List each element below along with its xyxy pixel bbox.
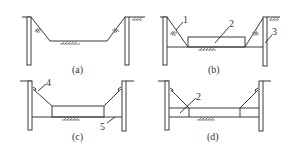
retaining-pile-right — [125, 17, 129, 65]
leader-line-2 — [180, 98, 196, 113]
subfigure-b: 1 2 3 (b) — [160, 14, 280, 76]
caption-d: (d) — [207, 131, 219, 143]
diagonal-brace-left — [33, 89, 52, 106]
retaining-pile-right — [122, 81, 126, 131]
subfigure-a: (a) — [22, 17, 145, 76]
center-block — [52, 106, 104, 117]
retaining-pile-left — [163, 17, 167, 65]
caption-a: (a) — [72, 64, 83, 76]
subfigure-d: 2 (d) — [158, 81, 271, 143]
label-2: 2 — [196, 91, 201, 102]
retaining-pile-left — [28, 81, 32, 130]
label-3: 3 — [272, 26, 277, 37]
caption-b: (b) — [208, 64, 220, 76]
retaining-pile-right — [259, 81, 263, 131]
diagonal-brace-left — [171, 90, 189, 108]
subfigure-c: 4 5 (c) — [20, 77, 134, 143]
slope-right — [245, 18, 263, 47]
caption-c: (c) — [72, 131, 83, 143]
diagonal-brace-right — [104, 89, 121, 106]
retaining-pile-left — [27, 17, 31, 65]
excavation-profile — [31, 17, 125, 41]
label-1: 1 — [183, 14, 188, 25]
leader-line-5 — [107, 117, 115, 123]
diagonal-brace-right — [240, 90, 258, 108]
retaining-pile-left — [165, 81, 169, 130]
excavation-support-diagram: (a) 1 2 3 (b) — [0, 0, 295, 150]
label-4: 4 — [46, 77, 51, 88]
leader-line-2 — [215, 27, 229, 43]
label-5: 5 — [100, 121, 105, 132]
label-2: 2 — [229, 18, 234, 29]
leader-line-1 — [176, 22, 183, 30]
leader-line-4 — [38, 84, 46, 91]
